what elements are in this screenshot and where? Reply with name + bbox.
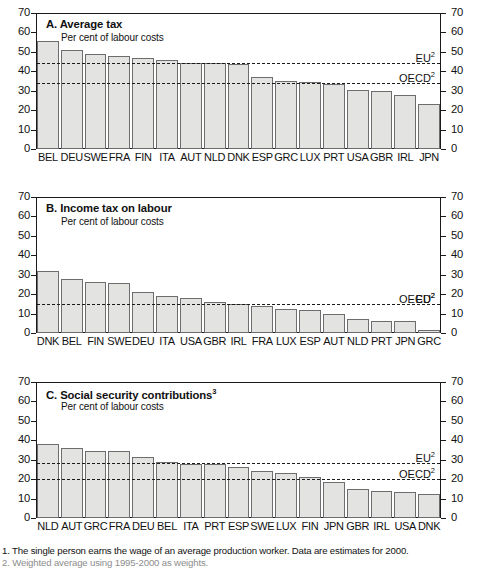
y-axis-tick-label-right: 30 (451, 85, 477, 96)
reference-line-label-superscript: 2 (431, 450, 435, 459)
y-axis-tick-mark-right (441, 32, 446, 33)
reference-line-label-superscript: 2 (431, 70, 435, 79)
y-axis-tick-label-left: 40 (2, 249, 30, 260)
y-axis-tick-label-right: 20 (451, 473, 477, 484)
reference-line-label-text: OECD (399, 72, 431, 84)
reference-line-label-text: EU (416, 452, 431, 464)
y-axis-tick-label-right: 50 (451, 415, 477, 426)
y-axis-tick-mark-right (441, 421, 446, 422)
bar (347, 90, 369, 149)
y-axis-tick-label-right: 50 (451, 230, 477, 241)
y-axis-tick-label-right: 40 (451, 249, 477, 260)
y-axis-tick-label-left: 0 (2, 143, 30, 154)
bar (85, 54, 107, 149)
y-axis-tick-mark-left (31, 236, 36, 237)
y-axis-tick-label-left: 70 (2, 376, 30, 387)
y-axis-tick-label-right: 0 (451, 327, 477, 338)
panel-subtitle: Per cent of labour costs (61, 32, 164, 43)
footnote-1: 1. The single person earns the wage of a… (2, 545, 409, 556)
y-axis-tick-mark-right (441, 149, 446, 150)
reference-line-label-eu: EU2 (0, 449, 435, 464)
bar (371, 321, 393, 333)
bar (228, 304, 250, 333)
reference-line-label-superscript: 2 (431, 466, 435, 475)
bar (251, 306, 273, 333)
y-axis-tick-label-left: 0 (2, 327, 30, 338)
y-axis-tick-label-right: 40 (451, 65, 477, 76)
y-axis-tick-label-left: 60 (2, 395, 30, 406)
y-axis-tick-label-left: 10 (2, 124, 30, 135)
reference-line-label-text: OECD (399, 468, 431, 480)
bar (347, 489, 369, 518)
y-axis-tick-mark-right (441, 130, 446, 131)
y-axis-tick-mark-right (441, 13, 446, 14)
y-axis-tick-mark-left (31, 421, 36, 422)
y-axis-tick-mark-right (441, 479, 446, 480)
y-axis-tick-label-left: 30 (2, 85, 30, 96)
panel-title-superscript: 3 (212, 387, 216, 396)
y-axis-tick-mark-right (441, 499, 446, 500)
y-axis-tick-mark-right (441, 52, 446, 53)
y-axis-tick-mark-right (441, 440, 446, 441)
y-axis-tick-mark-left (31, 91, 36, 92)
y-axis-tick-mark-right (441, 518, 446, 519)
y-axis-tick-mark-left (31, 440, 36, 441)
x-axis-category-label: DNK (415, 521, 443, 532)
panel-subtitle: Per cent of labour costs (61, 401, 164, 412)
y-axis-tick-label-right: 40 (451, 434, 477, 445)
y-axis-tick-label-right: 60 (451, 210, 477, 221)
bar (347, 319, 369, 333)
panel-title-text: B. Income tax on labour (46, 202, 172, 214)
footnote-2: 2. Weighted average using 1995-2000 as w… (2, 557, 208, 568)
panel-subtitle: Per cent of labour costs (61, 216, 164, 227)
y-axis-tick-label-right: 50 (451, 46, 477, 57)
y-axis-tick-mark-left (31, 333, 36, 334)
y-axis-tick-label-left: 50 (2, 415, 30, 426)
reference-line-label-text: EU (416, 52, 431, 64)
bar (61, 279, 83, 333)
bar (394, 321, 416, 333)
panel-title: C. Social security contributions3 (46, 387, 216, 401)
panel-title-text: A. Average tax (46, 18, 122, 30)
bar (371, 491, 393, 518)
y-axis-tick-mark-right (441, 294, 446, 295)
bar (299, 310, 321, 333)
y-axis-tick-mark-left (31, 32, 36, 33)
y-axis-tick-label-left: 70 (2, 191, 30, 202)
bar (251, 77, 273, 149)
y-axis-tick-mark-left (31, 401, 36, 402)
y-axis-tick-label-left: 10 (2, 308, 30, 319)
reference-line-label-eu: EU2 (0, 49, 435, 64)
y-axis-tick-label-left: 70 (2, 7, 30, 18)
bar (323, 482, 345, 518)
bar (299, 82, 321, 149)
y-axis-tick-label-right: 20 (451, 104, 477, 115)
y-axis-tick-mark-right (441, 216, 446, 217)
y-axis-tick-label-right: 0 (451, 143, 477, 154)
y-axis-tick-mark-right (441, 314, 446, 315)
y-axis-tick-mark-left (31, 13, 36, 14)
y-axis-tick-label-right: 60 (451, 395, 477, 406)
y-axis-tick-mark-left (31, 275, 36, 276)
y-axis-tick-label-left: 60 (2, 210, 30, 221)
y-axis-tick-mark-left (31, 518, 36, 519)
bar (275, 81, 297, 149)
y-axis-tick-label-left: 60 (2, 26, 30, 37)
bar (418, 330, 440, 333)
y-axis-tick-mark-right (441, 333, 446, 334)
y-axis-tick-mark-left (31, 110, 36, 111)
bar (204, 302, 226, 333)
y-axis-tick-mark-right (441, 382, 446, 383)
y-axis-tick-label-left: 50 (2, 230, 30, 241)
bar (394, 95, 416, 149)
y-axis-tick-label-left: 30 (2, 269, 30, 280)
y-axis-tick-mark-right (441, 197, 446, 198)
y-axis-tick-label-left: 20 (2, 104, 30, 115)
y-axis-tick-mark-left (31, 382, 36, 383)
y-axis-tick-label-right: 0 (451, 512, 477, 523)
y-axis-tick-label-right: 70 (451, 376, 477, 387)
bar (418, 494, 440, 518)
y-axis-tick-mark-left (31, 130, 36, 131)
reference-line-label-oecd: OECD2 (0, 69, 435, 84)
